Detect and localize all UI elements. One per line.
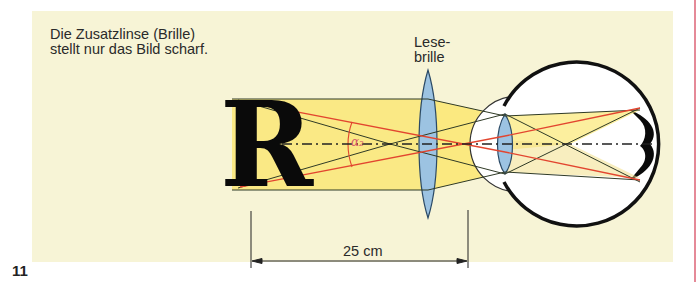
dimension-label: 25 cm: [343, 243, 383, 259]
page-number: 11: [12, 262, 28, 279]
angle-label: α₂: [351, 135, 364, 149]
dimension-25cm: [251, 210, 468, 268]
object-letter-r: R: [220, 86, 313, 204]
